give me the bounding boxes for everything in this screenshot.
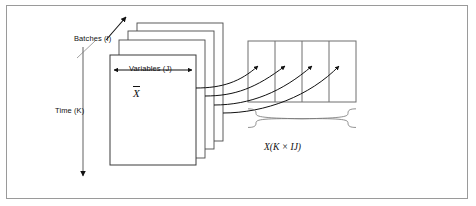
time-label: Time (K) bbox=[55, 106, 84, 115]
unfolded-matrix-label: X(K × IJ) bbox=[264, 142, 301, 152]
diagram-root: Batches (I) Variables (J) Time (K) X X(K… bbox=[0, 0, 476, 206]
batches-leader-line bbox=[77, 41, 95, 58]
mean-symbol-letter: X bbox=[133, 88, 140, 98]
variables-label: Variables (J) bbox=[129, 64, 172, 73]
diagram-canvas bbox=[0, 0, 476, 206]
matrix-brace-icon bbox=[248, 109, 356, 128]
mean-symbol: X bbox=[133, 86, 140, 98]
batches-label: Batches (I) bbox=[74, 34, 111, 43]
